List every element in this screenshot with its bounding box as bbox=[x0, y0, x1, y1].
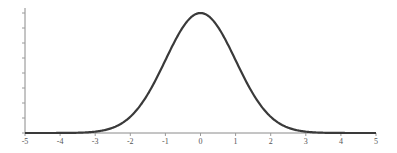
normal-curve bbox=[25, 13, 376, 133]
x-axis-tick-labels: -5-4-3-2-1012345 bbox=[22, 137, 378, 146]
y-axis bbox=[22, 8, 25, 133]
x-tick-label: -5 bbox=[22, 137, 29, 146]
x-tick-label: 4 bbox=[339, 137, 343, 146]
normal-distribution-chart: -5-4-3-2-1012345 bbox=[0, 0, 397, 153]
x-axis: -5-4-3-2-1012345 bbox=[22, 133, 378, 146]
x-tick-label: 5 bbox=[374, 137, 378, 146]
x-tick-label: -3 bbox=[92, 137, 99, 146]
x-tick-label: -4 bbox=[57, 137, 64, 146]
x-tick-label: 2 bbox=[269, 137, 273, 146]
x-tick-label: 1 bbox=[234, 137, 238, 146]
x-tick-label: 0 bbox=[199, 137, 203, 146]
x-tick-label: -2 bbox=[127, 137, 134, 146]
x-tick-label: -1 bbox=[162, 137, 169, 146]
x-tick-label: 3 bbox=[304, 137, 308, 146]
